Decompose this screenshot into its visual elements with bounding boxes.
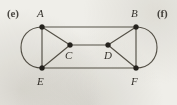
part-label-e: (e) (7, 7, 19, 19)
edge-D-F (108, 45, 136, 68)
vertex-C (68, 43, 73, 48)
vertex-label-c: C (65, 50, 72, 61)
edge-arc-A-E (21, 27, 42, 68)
vertex-E (40, 66, 45, 71)
figure-container: (e) (f) A B C D E F (0, 0, 177, 105)
vertex-label-e: E (37, 76, 44, 87)
edge-A-C (42, 27, 70, 45)
vertex-B (134, 25, 139, 30)
vertex-label-a: A (37, 8, 44, 19)
graph-diagram (0, 0, 177, 105)
vertex-A (40, 25, 45, 30)
part-label-f: (f) (157, 7, 167, 19)
edge-arc-B-F (136, 27, 157, 68)
vertex-D (106, 43, 111, 48)
vertex-label-b: B (131, 8, 138, 19)
vertex-label-f: F (131, 76, 138, 87)
vertex-label-d: D (104, 50, 112, 61)
vertex-F (134, 66, 139, 71)
edge-B-D (108, 27, 136, 45)
